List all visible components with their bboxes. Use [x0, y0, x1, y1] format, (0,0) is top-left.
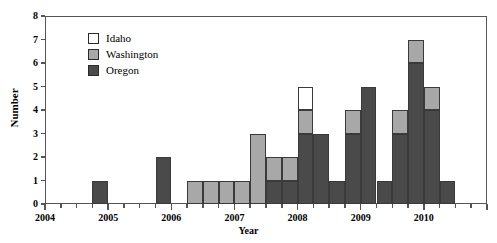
bar-segment-idaho	[298, 87, 314, 111]
bar-segment-washington	[424, 87, 440, 111]
x-tick-label: 2009	[341, 213, 381, 223]
bar-segment-oregon	[440, 181, 456, 205]
x-tick-mark-minor	[123, 204, 125, 208]
y-tick-label: 7	[20, 35, 38, 45]
legend-item-oregon: Oregon	[88, 65, 158, 76]
legend-label: Idaho	[106, 33, 131, 44]
x-tick-mark-major	[423, 204, 425, 210]
x-tick-label: 2004	[25, 213, 65, 223]
bar-column	[266, 157, 282, 204]
bar-column	[187, 181, 203, 205]
x-tick-label: 2010	[404, 213, 444, 223]
x-tick-mark-minor	[155, 204, 157, 208]
y-tick-mark	[41, 86, 45, 88]
x-tick-mark-minor	[186, 204, 188, 208]
bar-column	[361, 87, 377, 205]
x-tick-mark-major	[486, 204, 488, 210]
x-tick-mark-major	[107, 204, 109, 210]
legend-item-idaho: Idaho	[88, 33, 158, 44]
bar-segment-oregon	[361, 87, 377, 205]
x-tick-mark-minor	[344, 204, 346, 208]
y-tick-label: 2	[20, 152, 38, 162]
bar-segment-oregon	[156, 157, 172, 204]
bar-segment-washington	[298, 110, 314, 134]
chart-container: Number IdahoWashingtonOregon Year 012345…	[0, 0, 497, 243]
x-tick-mark-minor	[139, 204, 141, 208]
legend-swatch-icon	[88, 33, 99, 44]
bar-column	[156, 157, 172, 204]
chart-legend: IdahoWashingtonOregon	[88, 33, 158, 81]
x-tick-mark-minor	[328, 204, 330, 208]
bar-segment-washington	[219, 181, 235, 205]
bar-segment-oregon	[377, 181, 393, 205]
x-tick-mark-major	[44, 204, 46, 210]
bar-segment-oregon	[266, 181, 282, 205]
bar-segment-oregon	[408, 63, 424, 204]
y-tick-label: 1	[20, 176, 38, 186]
y-tick-label: 3	[20, 129, 38, 139]
x-tick-mark-minor	[455, 204, 457, 208]
x-tick-mark-minor	[313, 204, 315, 208]
bar-column	[298, 87, 314, 205]
bar-segment-washington	[392, 110, 408, 134]
y-tick-mark	[41, 109, 45, 111]
legend-label: Washington	[106, 49, 158, 60]
y-tick-mark	[41, 133, 45, 135]
bar-segment-washington	[345, 110, 361, 134]
x-tick-mark-minor	[218, 204, 220, 208]
bar-segment-washington	[187, 181, 203, 205]
x-tick-mark-minor	[76, 204, 78, 208]
bar-segment-oregon	[345, 134, 361, 205]
bar-segment-oregon	[392, 134, 408, 205]
y-axis-label: Number	[8, 80, 20, 136]
y-tick-mark	[41, 62, 45, 64]
bar-segment-oregon	[329, 181, 345, 205]
y-tick-label: 0	[20, 199, 38, 209]
bar-column	[424, 87, 440, 205]
legend-swatch-icon	[88, 65, 99, 76]
x-tick-mark-minor	[265, 204, 267, 208]
x-tick-label: 2007	[214, 213, 254, 223]
bar-column	[92, 181, 108, 205]
y-tick-mark	[41, 15, 45, 17]
x-tick-mark-minor	[281, 204, 283, 208]
x-tick-mark-minor	[249, 204, 251, 208]
bar-segment-washington	[282, 157, 298, 181]
legend-item-washington: Washington	[88, 49, 158, 60]
x-tick-mark-major	[234, 204, 236, 210]
bar-segment-washington	[234, 181, 250, 205]
x-tick-mark-minor	[202, 204, 204, 208]
bar-segment-washington	[203, 181, 219, 205]
bar-segment-washington	[250, 134, 266, 205]
bar-column	[329, 181, 345, 205]
y-tick-label: 4	[20, 105, 38, 115]
x-tick-mark-minor	[376, 204, 378, 208]
bar-column	[234, 181, 250, 205]
x-tick-mark-major	[360, 204, 362, 210]
legend-swatch-icon	[88, 49, 99, 60]
x-tick-mark-minor	[60, 204, 62, 208]
x-tick-label: 2008	[278, 213, 318, 223]
bar-segment-oregon	[313, 134, 329, 205]
bar-column	[377, 181, 393, 205]
x-tick-mark-major	[171, 204, 173, 210]
y-tick-label: 8	[20, 11, 38, 21]
bar-segment-oregon	[92, 181, 108, 205]
y-tick-mark	[41, 156, 45, 158]
legend-label: Oregon	[106, 65, 139, 76]
y-tick-label: 5	[20, 82, 38, 92]
bar-segment-washington	[408, 40, 424, 64]
x-tick-mark-minor	[470, 204, 472, 208]
bar-column	[219, 181, 235, 205]
bar-column	[392, 110, 408, 204]
x-axis-label: Year	[0, 225, 497, 236]
bar-column	[440, 181, 456, 205]
bar-column	[408, 40, 424, 205]
y-tick-label: 6	[20, 58, 38, 68]
x-tick-mark-major	[297, 204, 299, 210]
bar-column	[282, 157, 298, 204]
x-tick-mark-minor	[407, 204, 409, 208]
bar-column	[203, 181, 219, 205]
x-tick-label: 2006	[151, 213, 191, 223]
x-tick-mark-minor	[92, 204, 94, 208]
